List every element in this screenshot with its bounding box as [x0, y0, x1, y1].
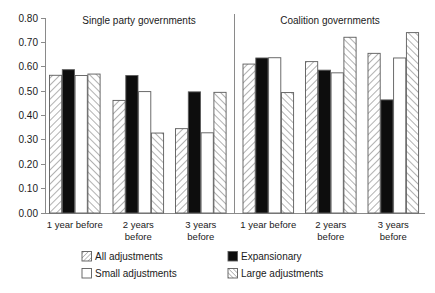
bar [243, 64, 255, 213]
bar [306, 62, 318, 213]
x-category-label: before [125, 231, 152, 242]
y-tick-label: 0.80 [19, 13, 39, 24]
bar [50, 75, 62, 213]
bar [201, 133, 213, 213]
bar-group [113, 76, 164, 213]
y-tick-label: 0.70 [19, 37, 39, 48]
y-axis-tick-labels: 0.000.100.200.300.400.500.600.700.80 [19, 13, 39, 219]
bar [188, 92, 200, 213]
bar [139, 92, 151, 213]
bar [368, 53, 380, 213]
panel-title-single-party: Single party governments [82, 15, 195, 26]
y-tick-label: 0.10 [19, 183, 39, 194]
bar-group [176, 92, 227, 213]
bar [151, 133, 163, 213]
panel-title-coalition: Coalition governments [280, 15, 380, 26]
x-category-label: 2 years [123, 219, 154, 230]
legend-swatch [82, 269, 92, 279]
bar [406, 33, 418, 213]
bar-group [368, 33, 419, 213]
x-category-label: before [317, 231, 344, 242]
bar [318, 70, 330, 213]
bar [126, 76, 138, 213]
bar [394, 58, 406, 213]
legend-swatch [228, 269, 238, 279]
bar [331, 73, 343, 213]
chart-legend: All adjustmentsExpansionarySmall adjustm… [82, 251, 323, 279]
bar-chart: 0.000.100.200.300.400.500.600.700.80 Sin… [0, 0, 435, 293]
bar [75, 76, 87, 213]
y-tick-label: 0.20 [19, 159, 39, 170]
bar [62, 70, 74, 213]
x-category-label: 2 years [315, 219, 346, 230]
bar [269, 58, 281, 213]
x-category-label: before [187, 231, 214, 242]
bar-group [50, 70, 101, 213]
y-tick-label: 0.00 [19, 208, 39, 219]
y-tick-label: 0.40 [19, 110, 39, 121]
x-category-label: 1 year before [240, 219, 296, 230]
legend-label: Expansionary [241, 251, 302, 262]
x-category-label: 1 year before [47, 219, 103, 230]
bar [88, 74, 100, 213]
legend-label: All adjustments [95, 251, 163, 262]
legend-swatch [228, 252, 238, 262]
bar [256, 58, 268, 213]
bar [113, 100, 125, 213]
y-tick-label: 0.50 [19, 86, 39, 97]
x-category-label: 3 years [378, 219, 409, 230]
y-tick-label: 0.60 [19, 61, 39, 72]
y-axis-ticks [41, 18, 45, 213]
x-category-label: 3 years [185, 219, 216, 230]
x-axis-category-labels: 1 year before2 yearsbefore3 yearsbefore1… [47, 219, 409, 242]
bar-group [306, 37, 357, 213]
bar-group [243, 58, 294, 213]
bar [381, 100, 393, 213]
x-category-label: before [380, 231, 407, 242]
legend-swatch [82, 252, 92, 262]
bar [281, 93, 293, 213]
bar [214, 92, 226, 213]
bar [344, 37, 356, 213]
legend-label: Small adjustments [95, 268, 177, 279]
chart-container: 0.000.100.200.300.400.500.600.700.80 Sin… [0, 0, 435, 293]
bar [176, 129, 188, 213]
legend-label: Large adjustments [241, 268, 323, 279]
y-tick-label: 0.30 [19, 134, 39, 145]
